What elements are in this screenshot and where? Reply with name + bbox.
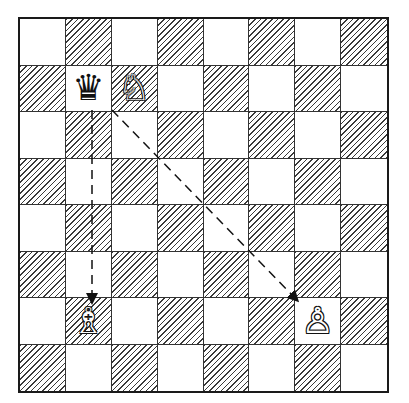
square-e3 <box>204 252 250 299</box>
square-a8 <box>20 19 66 66</box>
square-c5 <box>112 159 158 206</box>
piece-glyph: ♙ <box>302 303 334 339</box>
square-g6 <box>295 112 341 159</box>
square-h7 <box>341 66 387 113</box>
piece-glyph: ♗ <box>72 303 104 339</box>
black-queen-icon: ♛ <box>66 66 111 112</box>
square-e5 <box>204 159 250 206</box>
square-f4 <box>249 205 295 252</box>
square-h2 <box>341 298 387 345</box>
board-grid: ♛♘♗♙ <box>20 19 387 391</box>
square-g3 <box>295 252 341 299</box>
square-b4 <box>66 205 112 252</box>
square-c2 <box>112 298 158 345</box>
piece-glyph: ♛ <box>72 70 104 106</box>
square-e7 <box>204 66 250 113</box>
square-f1 <box>249 345 295 392</box>
square-c6 <box>112 112 158 159</box>
square-g2: ♙ <box>295 298 341 345</box>
square-f2 <box>249 298 295 345</box>
square-c4 <box>112 205 158 252</box>
square-b1 <box>66 345 112 392</box>
square-d5 <box>158 159 204 206</box>
square-d2 <box>158 298 204 345</box>
square-g1 <box>295 345 341 392</box>
square-d7 <box>158 66 204 113</box>
square-d6 <box>158 112 204 159</box>
white-pawn-icon: ♙ <box>295 298 340 344</box>
square-b8 <box>66 19 112 66</box>
square-e8 <box>204 19 250 66</box>
square-h3 <box>341 252 387 299</box>
square-c7: ♘ <box>112 66 158 113</box>
square-f7 <box>249 66 295 113</box>
square-a4 <box>20 205 66 252</box>
square-a3 <box>20 252 66 299</box>
square-c8 <box>112 19 158 66</box>
square-b3 <box>66 252 112 299</box>
square-a6 <box>20 112 66 159</box>
chess-board: ♛♘♗♙ <box>18 17 389 393</box>
square-b7: ♛ <box>66 66 112 113</box>
piece-glyph: ♘ <box>118 70 150 106</box>
square-a1 <box>20 345 66 392</box>
square-c1 <box>112 345 158 392</box>
white-knight-icon: ♘ <box>112 66 157 112</box>
square-e6 <box>204 112 250 159</box>
white-bishop-icon: ♗ <box>66 298 111 344</box>
square-f5 <box>249 159 295 206</box>
square-h5 <box>341 159 387 206</box>
square-d4 <box>158 205 204 252</box>
square-g5 <box>295 159 341 206</box>
square-h4 <box>341 205 387 252</box>
square-h1 <box>341 345 387 392</box>
square-e4 <box>204 205 250 252</box>
square-b2: ♗ <box>66 298 112 345</box>
square-b6 <box>66 112 112 159</box>
square-h6 <box>341 112 387 159</box>
square-f8 <box>249 19 295 66</box>
square-g7 <box>295 66 341 113</box>
square-h8 <box>341 19 387 66</box>
square-e1 <box>204 345 250 392</box>
square-g4 <box>295 205 341 252</box>
square-f6 <box>249 112 295 159</box>
square-e2 <box>204 298 250 345</box>
square-d3 <box>158 252 204 299</box>
square-g8 <box>295 19 341 66</box>
square-a2 <box>20 298 66 345</box>
square-a7 <box>20 66 66 113</box>
square-d8 <box>158 19 204 66</box>
square-f3 <box>249 252 295 299</box>
square-a5 <box>20 159 66 206</box>
square-c3 <box>112 252 158 299</box>
square-d1 <box>158 345 204 392</box>
square-b5 <box>66 159 112 206</box>
